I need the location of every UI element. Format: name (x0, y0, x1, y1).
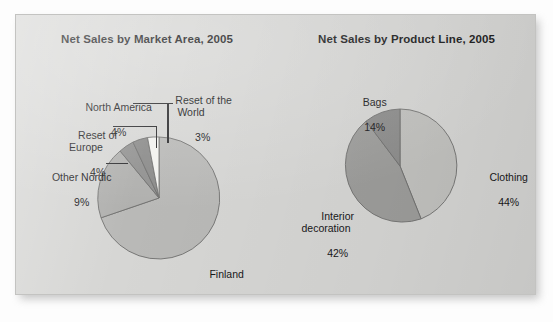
figure-panel: Net Sales by Market Area, 2005 (15, 14, 536, 295)
pie-label-rest-world-percent: 3% (195, 131, 210, 143)
chart-market-area: Net Sales by Market Area, 2005 (16, 15, 278, 294)
pie-label-other-nordic-name: Other Nordic (52, 171, 112, 183)
pie-label-other-nordic-percent: 9% (74, 196, 89, 208)
pie-label-rest-world: Reset of the World 3% (152, 81, 230, 156)
pie-label-clothing-percent: 44% (498, 196, 519, 208)
pie-label-interior-decoration-percent: 42% (327, 247, 348, 259)
pie-label-north-america-name: North America (85, 101, 152, 113)
pie-label-bags: Bags 14% (330, 83, 396, 146)
pie-label-bags-name: Bags (363, 96, 387, 108)
pie-label-rest-europe-name: Reset of Europe (69, 129, 117, 154)
scanned-page-background: Net Sales by Market Area, 2005 (0, 0, 553, 322)
pie-label-finland: Finland 80% (178, 255, 252, 295)
pie-label-interior-decoration-name: Interior decoration (301, 210, 354, 235)
pie-label-finland-name: Finland (209, 268, 243, 280)
chart-product-line: Net Sales by Product Line, 2005 Bags 14%… (278, 15, 535, 294)
pie-label-interior-decoration: Interior decoration 42% (284, 197, 368, 272)
pie-label-other-nordic: Other Nordic 9% (18, 158, 122, 221)
pie-label-finland-percent: 80% (216, 293, 237, 296)
pie-label-bags-percent: 14% (364, 121, 385, 133)
pie-label-rest-world-name: Reset of the World (175, 94, 232, 119)
chart-title-product-line: Net Sales by Product Line, 2005 (278, 33, 535, 45)
pie-label-clothing: Clothing 44% (464, 158, 530, 221)
pie-label-clothing-name: Clothing (489, 171, 528, 183)
chart-title-market-area: Net Sales by Market Area, 2005 (16, 33, 278, 45)
